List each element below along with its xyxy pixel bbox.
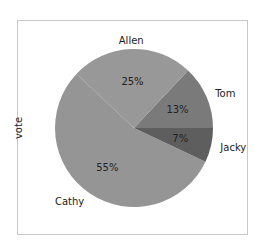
slice-label-allen: Allen xyxy=(119,35,144,46)
pie-chart: 13%Tom25%Allen55%Cathy7%Jacky xyxy=(0,0,267,250)
y-axis-label: vote xyxy=(13,113,24,143)
slice-label-cathy: Cathy xyxy=(55,196,84,207)
pct-label-cathy: 55% xyxy=(96,162,118,173)
pct-label-tom: 13% xyxy=(166,104,188,115)
pct-label-allen: 25% xyxy=(121,76,143,87)
slice-label-tom: Tom xyxy=(214,88,235,99)
slice-label-jacky: Jacky xyxy=(219,142,246,153)
pct-label-jacky: 7% xyxy=(172,133,188,144)
